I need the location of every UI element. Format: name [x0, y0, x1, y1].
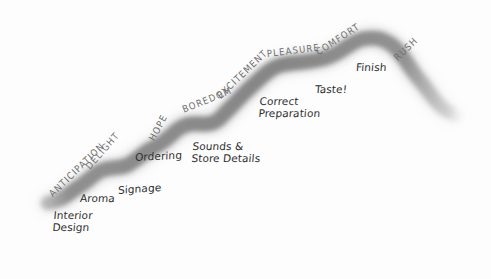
axis-group	[40, 36, 462, 264]
emotion-curve	[48, 38, 462, 203]
journey-emotion-curve-figure: ANTICIPATION DELIGHT HOPE BOREDOM EXCITE…	[0, 0, 491, 279]
sketch-canvas	[0, 0, 491, 279]
